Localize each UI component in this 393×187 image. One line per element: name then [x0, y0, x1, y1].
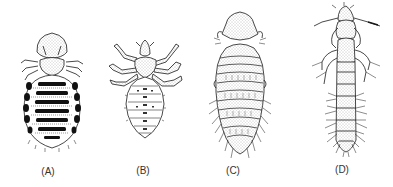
panel-label-a: (A)	[41, 167, 54, 177]
panel-label-d: (D)	[335, 165, 349, 175]
specimen-b	[109, 40, 182, 138]
panel-label-b: (B)	[136, 166, 149, 176]
panel-label-c: (C)	[226, 166, 240, 176]
louse-illustrations	[0, 0, 393, 187]
specimen-c	[209, 12, 271, 158]
specimen-d	[312, 2, 380, 157]
specimen-a	[21, 33, 83, 152]
